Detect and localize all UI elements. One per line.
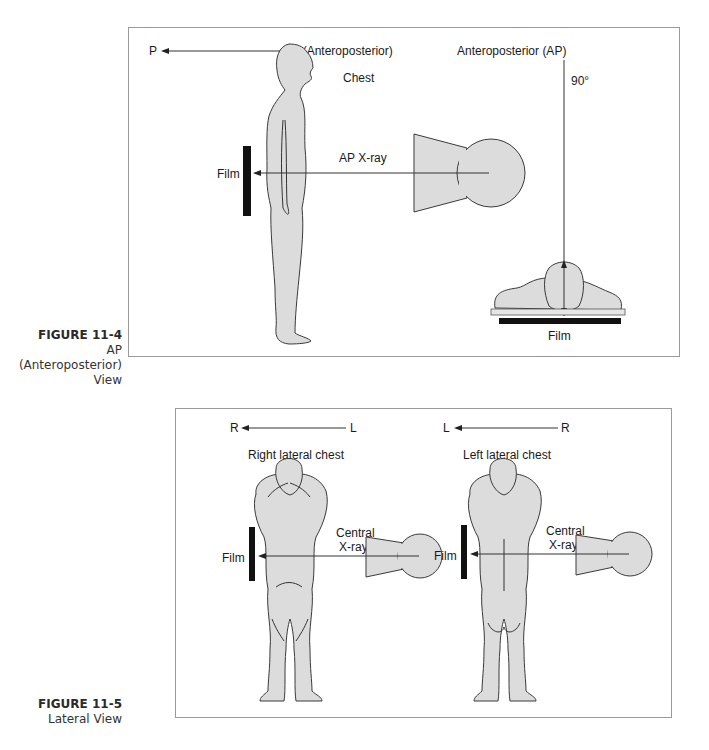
label-l: L	[443, 421, 450, 435]
label-ap-view-name: Anteroposterior (AP)	[457, 44, 566, 58]
panel-right-lateral: R L Right lateral chest Film Central X-r…	[222, 421, 442, 701]
film-plate	[249, 527, 255, 581]
figure-title: Lateral View	[0, 712, 122, 727]
label-r: R	[561, 421, 570, 435]
xray-tube-icon	[576, 532, 652, 576]
label-xray: X-ray	[549, 538, 578, 552]
supine-chest-icon	[491, 260, 625, 316]
figure-lateral-view: R L Right lateral chest Film Central X-r…	[175, 408, 672, 718]
lateral-view-diagram: R L Right lateral chest Film Central X-r…	[176, 409, 673, 719]
label-angle: 90°	[571, 74, 589, 88]
label-ap-xray: AP X-ray	[339, 151, 387, 165]
label-p: P	[149, 44, 157, 58]
arrowhead-icon	[241, 425, 249, 431]
figure-number: FIGURE 11-4	[0, 328, 122, 343]
caption-figure-11-4: FIGURE 11-4 AP (Anteroposterior) View	[0, 328, 122, 388]
figure-ap-view: P A (Anteroposterior) Anteroposterior (A…	[128, 27, 680, 357]
arrowhead-icon	[470, 551, 478, 557]
label-film: Film	[222, 551, 245, 565]
label-film-bottom: Film	[548, 329, 571, 343]
person-back-icon	[468, 459, 541, 702]
person-profile-icon	[267, 44, 313, 344]
xray-tube-icon	[366, 534, 442, 578]
label-l: L	[350, 421, 357, 435]
film-plate-bottom	[499, 318, 621, 324]
label-xray: X-ray	[339, 540, 368, 554]
label-film-left: Film	[217, 167, 240, 181]
figure-title-line2: View	[0, 373, 122, 388]
ap-view-diagram: P A (Anteroposterior) Anteroposterior (A…	[129, 28, 681, 358]
panel-left-lateral: L R Left lateral chest Film Central X-ra…	[434, 421, 652, 701]
arrowhead-icon	[454, 425, 462, 431]
arrowhead-icon	[253, 170, 261, 176]
film-plate	[461, 525, 467, 579]
arrowhead-icon	[161, 48, 169, 54]
arrowhead-icon	[258, 553, 266, 559]
figure-title-line1: AP (Anteroposterior)	[0, 343, 122, 373]
xray-tube-icon	[414, 134, 525, 212]
caption-figure-11-5: FIGURE 11-5 Lateral View	[0, 697, 122, 727]
label-film: Film	[434, 549, 457, 563]
film-plate	[243, 146, 251, 216]
person-front-icon	[254, 459, 327, 702]
label-r: R	[230, 421, 239, 435]
figure-number: FIGURE 11-5	[0, 697, 122, 712]
label-chest: Chest	[343, 71, 375, 85]
